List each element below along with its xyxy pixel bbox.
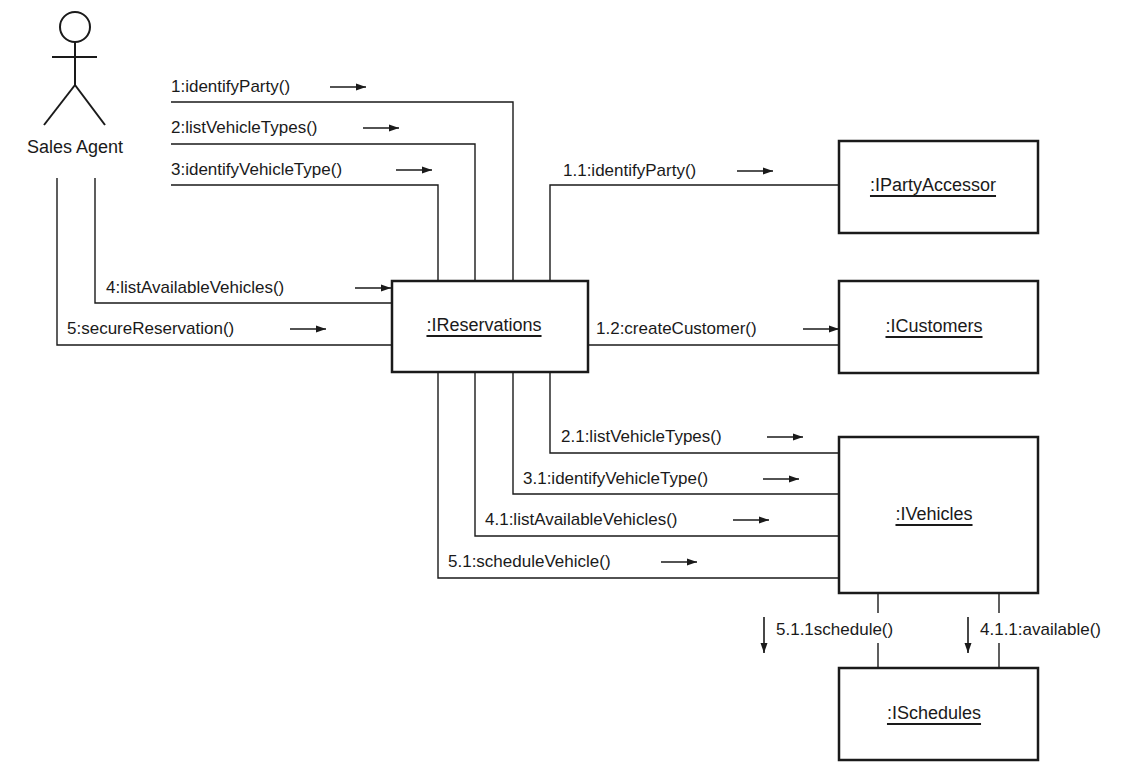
actor-label: Sales Agent (27, 136, 123, 158)
message-label: 5:secureReservation() (67, 319, 234, 339)
message-label: 5.1.1schedule() (776, 620, 893, 640)
message-label: 4:listAvailableVehicles() (106, 278, 284, 298)
message-label: 4.1:listAvailableVehicles() (485, 510, 677, 530)
message-label: 2.1:listVehicleTypes() (561, 427, 722, 447)
message-label: 1.2:createCustomer() (596, 319, 757, 339)
message-label: 3:identifyVehicleType() (171, 160, 342, 180)
object-label-reservations: :IReservations (426, 314, 541, 336)
message-label: 2:listVehicleTypes() (171, 118, 317, 138)
object-label-customers: :ICustomers (885, 315, 982, 337)
object-label-schedules: :ISchedules (887, 702, 981, 724)
message-label: 3.1:identifyVehicleType() (523, 469, 708, 489)
message-label: 5.1:scheduleVehicle() (448, 552, 611, 572)
object-label-party-accessor: :IPartyAccessor (870, 174, 996, 196)
message-label: 1.1:identifyParty() (563, 161, 696, 181)
message-label: 1:identifyParty() (171, 77, 290, 97)
link-m1-1 (550, 185, 839, 281)
object-label-vehicles: :IVehicles (895, 503, 972, 525)
actor-stick-figure-icon (44, 12, 105, 125)
message-label: 4.1.1:available() (980, 620, 1101, 640)
link-m3 (171, 185, 438, 281)
collaboration-diagram (0, 0, 1146, 775)
